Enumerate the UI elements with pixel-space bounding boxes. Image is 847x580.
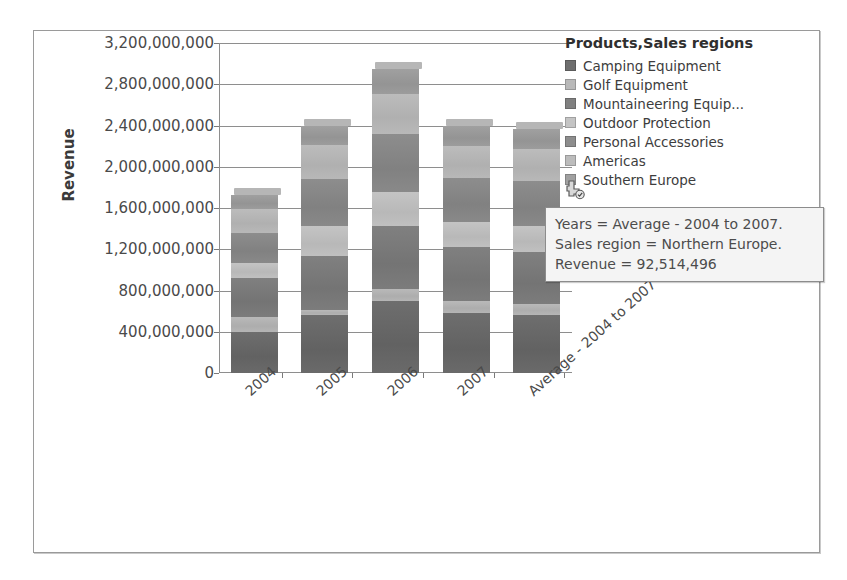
bar-segment[interactable] xyxy=(231,317,278,331)
y-axis-tick xyxy=(214,208,219,209)
bar-segment-face xyxy=(443,178,490,222)
bar-segment-face xyxy=(443,146,490,178)
bar-segment[interactable] xyxy=(443,146,490,178)
bar-segment[interactable] xyxy=(231,278,278,317)
chart-legend[interactable]: Products,Sales regions Camping Equipment… xyxy=(562,35,817,189)
bar-segment-face xyxy=(513,129,560,149)
y-axis-tick-labels: 3,200,000,0002,800,000,0002,400,000,0002… xyxy=(34,31,214,371)
bar-segment[interactable] xyxy=(443,301,490,313)
bar-segment-face xyxy=(231,233,278,263)
tooltip-line-years: Years = Average - 2004 to 2007. xyxy=(555,214,814,234)
bar-segment[interactable] xyxy=(231,263,278,278)
y-axis-tick-label: 2,400,000,000 xyxy=(104,117,214,135)
legend-item[interactable]: Camping Equipment xyxy=(562,56,817,75)
bar-segment[interactable] xyxy=(231,209,278,233)
bar-top-cap xyxy=(375,62,422,69)
bar-segment[interactable] xyxy=(443,247,490,301)
x-axis-tick xyxy=(352,373,353,378)
data-tooltip: Years = Average - 2004 to 2007. Sales re… xyxy=(545,207,824,282)
x-axis-tick xyxy=(423,373,424,378)
legend-item[interactable]: Mountaineering Equip... xyxy=(562,94,817,113)
bar-segment[interactable] xyxy=(301,126,348,146)
tooltip-line-region: Sales region = Northern Europe. xyxy=(555,234,814,254)
bar-segment[interactable] xyxy=(443,222,490,247)
bar-segment[interactable] xyxy=(301,256,348,310)
bar-segment-face xyxy=(301,226,348,257)
bar-segment[interactable] xyxy=(372,134,419,192)
bar-segment-face xyxy=(231,317,278,331)
report-frame: Revenue 3,200,000,0002,800,000,0002,400,… xyxy=(33,30,820,553)
bar-segment-face xyxy=(372,226,419,290)
y-axis-tick xyxy=(214,373,219,374)
y-axis-tick xyxy=(214,167,219,168)
legend-item[interactable]: Outdoor Protection xyxy=(562,113,817,132)
bar-segment-face xyxy=(443,301,490,313)
bar-segment-face xyxy=(372,289,419,300)
plot-area[interactable] xyxy=(219,43,572,373)
bar-segment-face xyxy=(231,195,278,209)
bar-segment-face xyxy=(231,278,278,317)
bar-segment[interactable] xyxy=(372,289,419,300)
legend-swatch xyxy=(565,79,576,90)
bar-segment-face xyxy=(443,126,490,147)
bar-top-cap xyxy=(234,188,281,195)
bar-segment-face xyxy=(301,126,348,146)
bar-segment[interactable] xyxy=(231,233,278,263)
bar-top-cap xyxy=(304,119,351,126)
legend-item[interactable]: Personal Accessories xyxy=(562,132,817,151)
bar-segment-face xyxy=(301,145,348,179)
bar-segment-face xyxy=(372,69,419,94)
y-axis-tick-label: 1,200,000,000 xyxy=(104,240,214,258)
bar-segment-face xyxy=(301,179,348,225)
legend-item-label: Americas xyxy=(583,153,646,169)
bar-segment[interactable] xyxy=(372,94,419,134)
bar-segment-face xyxy=(231,209,278,233)
bar-segment[interactable] xyxy=(301,145,348,179)
bar-segment[interactable] xyxy=(301,179,348,225)
y-axis-tick-label: 1,600,000,000 xyxy=(104,199,214,217)
bar-segment-face xyxy=(301,256,348,310)
bar-segment[interactable] xyxy=(372,192,419,226)
y-axis-tick-label: 3,200,000,000 xyxy=(104,34,214,52)
legend-item[interactable]: Southern Europe xyxy=(562,170,817,189)
bar-segment[interactable] xyxy=(372,301,419,373)
bar-segment[interactable] xyxy=(301,310,348,315)
legend-item-list[interactable]: Camping EquipmentGolf EquipmentMountaine… xyxy=(562,56,817,189)
bar-segment-face xyxy=(513,149,560,181)
bar-segment-face xyxy=(372,94,419,134)
bar-segment[interactable] xyxy=(513,129,560,149)
report-canvas: Revenue 3,200,000,0002,800,000,0002,400,… xyxy=(0,0,847,580)
bar-segment[interactable] xyxy=(231,195,278,209)
tooltip-line-revenue: Revenue = 92,514,496 xyxy=(555,254,814,274)
bar-segment[interactable] xyxy=(372,226,419,290)
bar-segment-face xyxy=(301,310,348,315)
x-axis-tick xyxy=(282,373,283,378)
y-axis-tick xyxy=(214,43,219,44)
legend-item[interactable]: Golf Equipment xyxy=(562,75,817,94)
bar-segment[interactable] xyxy=(443,313,490,373)
stacked-column-chart[interactable]: Revenue 3,200,000,0002,800,000,0002,400,… xyxy=(34,31,821,554)
y-axis-tick xyxy=(214,291,219,292)
legend-item-label: Mountaineering Equip... xyxy=(583,96,744,112)
bar-segment[interactable] xyxy=(513,304,560,315)
bar-segment[interactable] xyxy=(372,69,419,94)
bar-segment[interactable] xyxy=(301,226,348,257)
y-axis-tick xyxy=(214,249,219,250)
bar-segment[interactable] xyxy=(443,178,490,222)
x-axis-tick xyxy=(494,373,495,378)
y-axis-tick xyxy=(214,126,219,127)
legend-item-label: Southern Europe xyxy=(583,172,696,188)
bar-segment[interactable] xyxy=(513,149,560,181)
legend-item-label: Personal Accessories xyxy=(583,134,724,150)
bar-segment-face xyxy=(231,263,278,278)
bar-segment-face xyxy=(372,301,419,373)
bar-segment[interactable] xyxy=(443,126,490,147)
pointer-add-icon xyxy=(566,179,588,201)
legend-item[interactable]: Americas xyxy=(562,151,817,170)
x-axis-tick xyxy=(564,373,565,378)
bar-top-cap xyxy=(516,122,563,129)
legend-item-label: Outdoor Protection xyxy=(583,115,711,131)
y-axis-tick-label: 400,000,000 xyxy=(119,323,214,341)
bar-segment-face xyxy=(443,313,490,373)
legend-item-label: Golf Equipment xyxy=(583,77,688,93)
